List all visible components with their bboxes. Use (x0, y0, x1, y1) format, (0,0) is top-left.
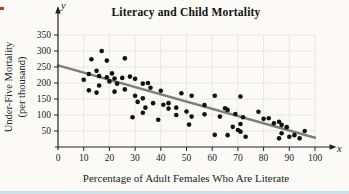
data-point (89, 57, 94, 62)
y-axis-label-line2: (per thousand) (15, 14, 28, 160)
x-tick-label: 100 (308, 153, 323, 163)
data-point (148, 86, 153, 91)
data-point (110, 71, 115, 76)
data-point (202, 112, 207, 117)
data-point (115, 81, 120, 86)
data-point (133, 94, 138, 99)
data-point (243, 134, 248, 139)
data-point (189, 94, 194, 99)
data-point (112, 76, 117, 81)
data-point (179, 91, 184, 96)
x-tick-label: 10 (79, 153, 89, 163)
x-axis-arrow-icon (330, 144, 337, 150)
data-point (261, 117, 266, 122)
y-axis-label-line1: Under-Five Mortality (2, 14, 15, 160)
x-tick-label: 70 (233, 153, 243, 163)
data-point (184, 109, 189, 114)
page-bottom-edge (0, 191, 349, 194)
data-point (302, 129, 307, 134)
data-point (105, 75, 110, 80)
data-point (161, 102, 166, 107)
y-axis-letter: y (61, 0, 66, 11)
y-tick-label: 200 (37, 78, 52, 88)
data-point (99, 49, 104, 54)
literacy-mortality-figure: 5010015020025030035001020304050607080901… (0, 0, 349, 194)
data-point (81, 78, 86, 83)
data-point (287, 134, 292, 139)
data-point (279, 123, 284, 128)
data-point (123, 87, 128, 92)
data-point (105, 58, 110, 63)
data-point (284, 125, 289, 130)
data-point (87, 72, 92, 77)
scatter-plot: 5010015020025030035001020304050607080901… (0, 0, 349, 194)
data-point (189, 114, 194, 119)
data-point (233, 112, 238, 117)
data-point (277, 136, 282, 141)
data-point (212, 94, 217, 99)
data-point (166, 106, 171, 111)
x-tick-label: 40 (156, 153, 166, 163)
y-tick-label: 300 (37, 46, 52, 56)
data-point (151, 101, 156, 106)
y-tick-label: 50 (42, 126, 52, 136)
data-point (238, 122, 243, 127)
x-tick-label: 50 (182, 153, 192, 163)
data-point (202, 103, 207, 108)
x-tick-label: 60 (207, 153, 217, 163)
x-tick-label: 0 (56, 153, 61, 163)
y-tick-label: 150 (37, 94, 52, 104)
data-point (256, 110, 261, 115)
data-point (225, 108, 230, 113)
x-tick-label: 20 (105, 153, 115, 163)
data-point (156, 118, 161, 123)
data-point (174, 113, 179, 118)
data-point (174, 105, 179, 110)
data-point (241, 115, 246, 120)
data-point (141, 110, 146, 115)
y-tick-label: 350 (37, 30, 52, 40)
x-tick-label: 80 (259, 153, 269, 163)
x-axis-label: Percentage of Adult Females Who Are Lite… (40, 172, 332, 184)
data-point (135, 100, 140, 105)
data-point (272, 121, 277, 126)
data-point (159, 88, 164, 93)
data-point (292, 133, 297, 138)
y-tick-label: 250 (37, 62, 52, 72)
data-point (238, 129, 243, 134)
data-point (87, 88, 92, 93)
data-point (141, 81, 146, 86)
data-point (279, 131, 284, 136)
data-point (218, 114, 223, 119)
data-point (297, 136, 302, 141)
data-point (94, 90, 99, 95)
x-axis-letter: x (337, 143, 342, 154)
data-point (97, 74, 102, 79)
data-point (230, 125, 235, 130)
x-tick-label: 30 (130, 153, 140, 163)
y-tick-labels: 50100150200250300350 (37, 30, 52, 136)
data-point (238, 94, 243, 99)
data-point (130, 115, 135, 120)
data-point (107, 79, 112, 84)
data-point (94, 69, 99, 74)
data-point (166, 101, 171, 106)
data-point (97, 83, 102, 88)
data-point (146, 81, 151, 86)
x-tick-labels: 0102030405060708090100 (56, 153, 323, 163)
data-point (225, 133, 230, 138)
data-point (120, 76, 125, 81)
data-point (143, 105, 148, 110)
chart-title: Literacy and Child Mortality (46, 6, 326, 18)
page-red-mark (0, 7, 4, 10)
tick-marks (54, 35, 315, 151)
y-axis-label: Under-Five Mortality (per thousand) (2, 14, 30, 160)
data-point (123, 56, 128, 61)
y-tick-label: 100 (37, 110, 52, 120)
data-point (187, 122, 192, 127)
data-point (128, 74, 133, 79)
data-point (112, 89, 117, 94)
data-point (266, 116, 271, 121)
data-point (212, 133, 217, 138)
data-point (133, 77, 138, 82)
